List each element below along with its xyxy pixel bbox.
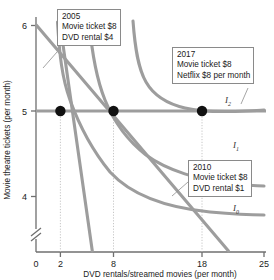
y-axis-title: Movie theatre tickets (per month): [3, 80, 12, 200]
x-tick-label-2: 2: [58, 259, 63, 269]
curve-label-i0: I0: [232, 203, 239, 215]
callout-2017: 2017 Movie ticket $8 Netflix $8 per mont…: [172, 47, 254, 84]
callout-2010-year: 2010: [193, 163, 248, 173]
equilibrium-dot-2005: [55, 106, 65, 116]
y-tick-label-5: 5: [22, 107, 27, 117]
callout-2010-line1: Movie ticket $8: [193, 173, 248, 183]
callout-2010-line2: DVD rental $1: [193, 184, 248, 194]
leader-line-2017: [241, 88, 248, 104]
callout-2005-line1: Movie ticket $8: [62, 22, 117, 32]
callout-2010: 2010 Movie ticket $8 DVD rental $1: [188, 160, 252, 197]
x-axis-title: DVD rentals/streamed movies (per month): [83, 270, 237, 279]
equilibrium-dot-2017: [197, 106, 207, 116]
curve-label-i2: I2: [224, 95, 231, 107]
x-tick-label-25: 25: [259, 259, 269, 269]
equilibrium-dot-2010: [108, 106, 118, 116]
callout-2005-year: 2005: [62, 12, 117, 22]
x-tick-label-18: 18: [197, 259, 207, 269]
x-tick-label-0: 0: [33, 259, 38, 269]
callout-2017-year: 2017: [177, 50, 250, 60]
chart-svg: I2 I1 I0 6 5 4 0 2 8 18 25 Movie theatre…: [0, 0, 274, 280]
indifference-curve-chart: I2 I1 I0 6 5 4 0 2 8 18 25 Movie theatre…: [0, 0, 274, 280]
callout-2005: 2005 Movie ticket $8 DVD rental $4: [57, 9, 121, 46]
curve-label-i1: I1: [232, 140, 239, 152]
y-tick-label-6: 6: [22, 21, 27, 31]
callout-2005-line2: DVD rental $4: [62, 33, 117, 43]
x-tick-label-8: 8: [111, 259, 116, 269]
leader-line-2005: [43, 52, 57, 68]
y-tick-label-4: 4: [22, 192, 27, 202]
callout-2017-line1: Movie ticket $8: [177, 60, 250, 70]
callout-2017-line2: Netflix $8 per month: [177, 71, 250, 81]
